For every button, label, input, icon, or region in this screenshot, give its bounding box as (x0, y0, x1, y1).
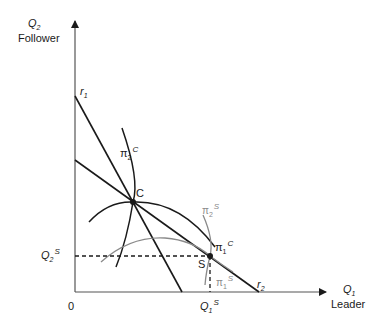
y-axis-name: Follower (18, 33, 60, 44)
x-axis-name: Leader (331, 299, 365, 310)
label-q2s: Q2S (41, 250, 60, 261)
stackelberg-diagram (0, 0, 383, 327)
label-q2s-superscript: S (54, 247, 59, 256)
label-r1: r1 (80, 86, 88, 97)
label-q1s-subscript: 1 (209, 307, 213, 314)
label-pi2c-subscript: 2 (128, 154, 132, 161)
y-axis-subscript: 2 (37, 24, 41, 31)
label-pi1c: π1C (215, 242, 233, 253)
label-r2: r2 (257, 279, 265, 290)
label-q2s-symbol: Q (41, 249, 50, 261)
x-axis-symbol-text: Q (343, 283, 352, 295)
label-pi1s-symbol: π (216, 277, 223, 288)
label-r1-subscript: 1 (84, 92, 88, 99)
x-axis-subscript: 1 (352, 290, 356, 297)
label-q1s-superscript: S (213, 298, 218, 307)
reaction-curve-r2 (75, 160, 259, 292)
label-pi1s-subscript: 1 (223, 283, 227, 290)
label-pi1c-superscript: C (228, 239, 234, 248)
reaction-curve-r1 (75, 96, 182, 292)
label-q1s-symbol: Q (200, 300, 209, 312)
isoprofit-curve-pi1c (89, 202, 215, 247)
isoprofit-curve-pi2s (203, 215, 211, 285)
label-point-s: S (198, 259, 205, 270)
label-pi2s-subscript: 2 (209, 211, 213, 218)
label-pi2s-symbol: π (202, 205, 209, 216)
label-pi1s: π1S (216, 278, 233, 288)
label-pi2s-superscript: S (214, 202, 219, 211)
origin-label: 0 (68, 301, 74, 312)
point-s (207, 253, 213, 259)
y-axis-symbol-text: Q (28, 17, 37, 29)
label-pi2s: π2S (202, 206, 219, 216)
x-axis-symbol: Q1 (343, 284, 355, 295)
label-q1s: Q1S (200, 301, 219, 312)
label-r2-subscript: 2 (261, 285, 265, 292)
point-c (130, 199, 136, 205)
label-pi1c-subscript: 1 (223, 248, 227, 255)
label-q2s-subscript: 2 (50, 256, 54, 263)
label-pi2c: π2C (120, 148, 138, 159)
label-pi2c-symbol: π (120, 147, 128, 159)
y-axis-symbol: Q2 (28, 18, 40, 29)
label-pi2c-superscript: C (133, 145, 139, 154)
label-point-c: C (136, 188, 144, 199)
label-pi1c-symbol: π (215, 241, 223, 253)
label-pi1s-superscript: S (228, 274, 233, 283)
